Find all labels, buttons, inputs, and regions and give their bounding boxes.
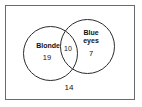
intersection-count: 10	[58, 45, 78, 53]
outside-count: 14	[55, 84, 83, 92]
venn-diagram: Blonde 19 Blue eyes 7 10 14	[0, 0, 142, 107]
set-count-blonde: 19	[30, 54, 64, 62]
set-label-blue-eyes: Blue eyes	[73, 29, 109, 45]
set-count-blue-eyes: 7	[76, 50, 106, 58]
